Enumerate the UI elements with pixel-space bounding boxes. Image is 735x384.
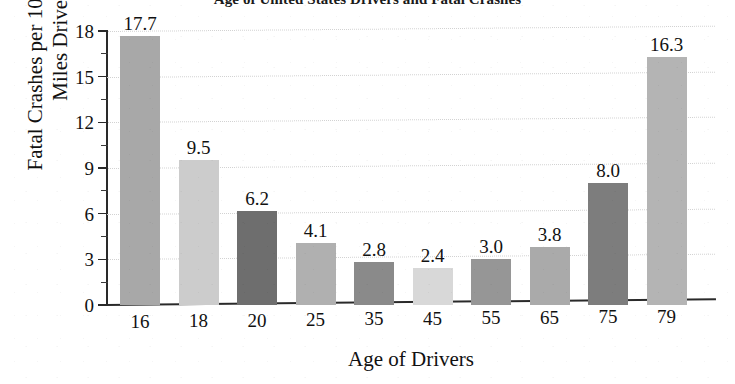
plot-area: 036912151817.79.56.24.12.82.43.03.88.016… bbox=[107, 31, 715, 305]
bar: 3.0 bbox=[471, 259, 511, 305]
y-axis-tick bbox=[98, 76, 108, 78]
y-axis-minor-tick bbox=[101, 236, 108, 237]
y-axis-minor-tick bbox=[101, 145, 108, 146]
bar: 17.7 bbox=[120, 36, 160, 305]
chart-figure: Age of United States Drivers and Fatal C… bbox=[0, 0, 735, 384]
gridline bbox=[107, 117, 715, 124]
y-axis-tick-label: 0 bbox=[85, 296, 95, 315]
x-axis-tick-label: 35 bbox=[365, 309, 384, 329]
y-axis-title: Fatal Crashes per 100 Million Miles Driv… bbox=[23, 0, 73, 188]
y-axis-minor-tick bbox=[101, 282, 108, 283]
y-axis-minor-tick bbox=[101, 190, 108, 191]
x-axis-title: Age of Drivers bbox=[107, 347, 715, 372]
bar: 6.2 bbox=[237, 211, 277, 305]
y-axis-minor-tick bbox=[101, 53, 108, 54]
x-axis-tick-label: 79 bbox=[657, 307, 676, 327]
y-axis-tick-label: 3 bbox=[85, 250, 95, 269]
bar: 4.1 bbox=[296, 243, 336, 305]
x-axis-tick-label: 75 bbox=[599, 307, 618, 327]
x-axis-tick-label: 25 bbox=[306, 310, 325, 330]
gridline bbox=[107, 26, 715, 33]
y-axis-title-container: Fatal Crashes per 100 Million Miles Driv… bbox=[30, 0, 66, 188]
y-axis-tick bbox=[98, 30, 108, 32]
bar-value-label: 17.7 bbox=[123, 14, 156, 34]
bar: 16.3 bbox=[647, 57, 687, 305]
y-axis-minor-tick bbox=[101, 99, 108, 100]
y-axis-tick bbox=[98, 167, 108, 169]
y-axis-tick bbox=[98, 304, 108, 306]
bar-value-label: 9.5 bbox=[187, 138, 211, 158]
chart-title: Age of United States Drivers and Fatal C… bbox=[0, 0, 735, 8]
x-axis-tick-label: 55 bbox=[482, 308, 501, 328]
bar-value-label: 6.2 bbox=[245, 189, 269, 209]
y-axis-tick-label: 18 bbox=[75, 22, 94, 41]
y-axis-tick-label: 12 bbox=[75, 113, 94, 132]
bar-value-label: 4.1 bbox=[304, 221, 328, 241]
y-axis-tick-label: 6 bbox=[85, 204, 95, 223]
x-axis-tick-label: 65 bbox=[540, 308, 559, 328]
y-axis-tick bbox=[98, 259, 108, 261]
y-axis-tick bbox=[98, 213, 108, 215]
bar-value-label: 3.8 bbox=[538, 225, 562, 245]
bar: 2.8 bbox=[354, 262, 394, 305]
bar-value-label: 8.0 bbox=[596, 161, 620, 181]
bar-value-label: 2.8 bbox=[362, 240, 386, 260]
bar: 3.8 bbox=[530, 247, 570, 305]
bar: 9.5 bbox=[179, 160, 219, 305]
y-axis-tick-label: 15 bbox=[75, 67, 94, 86]
bar: 2.4 bbox=[413, 268, 453, 305]
gridline bbox=[107, 71, 715, 78]
bar: 8.0 bbox=[588, 183, 628, 305]
bar-value-label: 2.4 bbox=[421, 246, 445, 266]
x-axis-tick-label: 20 bbox=[248, 311, 267, 331]
bar-value-label: 16.3 bbox=[650, 35, 683, 55]
x-axis-tick-label: 16 bbox=[131, 312, 150, 332]
x-axis-tick-label: 45 bbox=[423, 309, 442, 329]
y-axis-tick bbox=[98, 122, 108, 124]
bar-value-label: 3.0 bbox=[479, 237, 503, 257]
x-axis-tick-label: 18 bbox=[189, 311, 208, 331]
y-axis-tick-label: 9 bbox=[85, 159, 95, 178]
